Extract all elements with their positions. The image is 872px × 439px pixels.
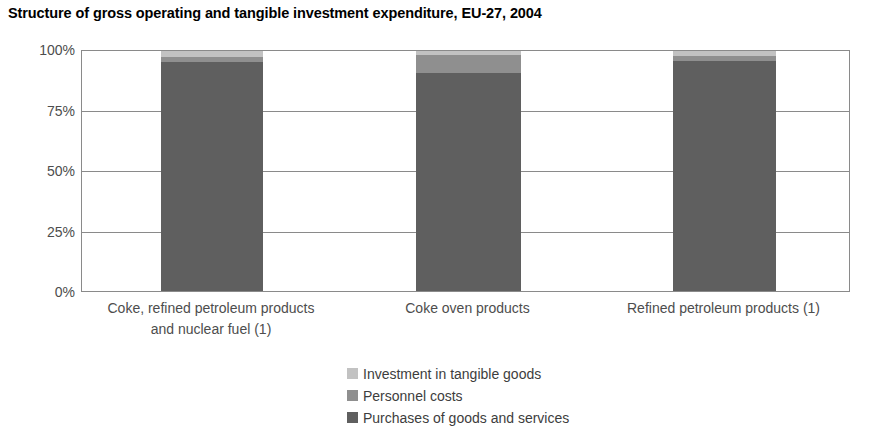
legend-label: Purchases of goods and services [363, 410, 569, 426]
x-tick-label: Coke, refined petroleum productsand nucl… [61, 298, 361, 340]
legend-swatch-icon [347, 390, 358, 401]
legend-swatch-icon [347, 412, 358, 423]
x-axis: Coke, refined petroleum productsand nucl… [81, 298, 850, 344]
chart-title: Structure of gross operating and tangibl… [8, 5, 542, 21]
legend-label: Investment in tangible goods [363, 366, 541, 382]
y-tick-label: 100% [0, 42, 75, 58]
y-axis: 0%25%50%75%100% [0, 50, 75, 292]
y-tick-label: 25% [0, 224, 75, 240]
plot-area [81, 50, 850, 292]
bar-segment [416, 73, 521, 291]
x-tick-label: Coke oven products [318, 298, 618, 319]
x-tick-label-line: Coke, refined petroleum products [61, 298, 361, 319]
legend-item: Purchases of goods and services [347, 407, 747, 428]
x-tick-label: Refined petroleum products (1) [574, 298, 872, 319]
chart-container: Structure of gross operating and tangibl… [0, 0, 872, 439]
y-tick-label: 75% [0, 103, 75, 119]
chart-legend: Investment in tangible goodsPersonnel co… [347, 363, 747, 429]
y-tick-label: 50% [0, 163, 75, 179]
bar-segment [161, 62, 263, 291]
bar-segment [673, 61, 776, 291]
bar-stack [673, 51, 776, 291]
x-tick-label-line: Coke oven products [318, 298, 618, 319]
legend-item: Investment in tangible goods [347, 363, 747, 384]
legend-swatch-icon [347, 368, 358, 379]
legend-item: Personnel costs [347, 385, 747, 406]
bar-stack [161, 51, 263, 291]
bar-stack [416, 51, 521, 291]
x-tick-label-line: and nuclear fuel (1) [61, 319, 361, 340]
x-tick-label-line: Refined petroleum products (1) [574, 298, 872, 319]
bar-segment [416, 55, 521, 73]
legend-label: Personnel costs [363, 388, 463, 404]
